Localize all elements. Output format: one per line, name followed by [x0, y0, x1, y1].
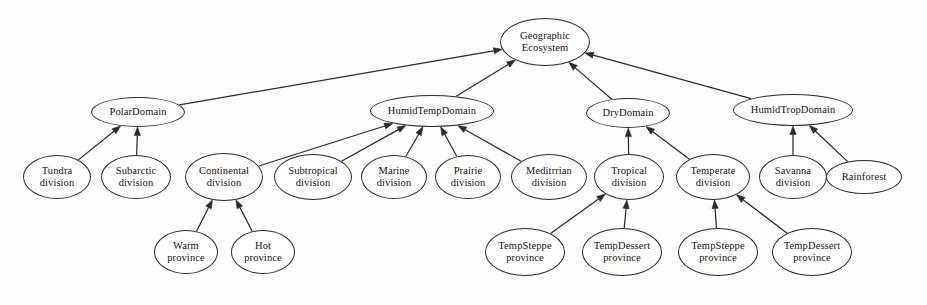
node-tempdessert2[interactable]: TempDessert province — [772, 228, 852, 276]
node-tempsteppe1[interactable]: TempSteppe province — [485, 228, 565, 276]
node-humidtrop[interactable]: HumidTropDomain — [733, 94, 853, 126]
node-label: Subtropical division — [285, 165, 341, 189]
node-label: HumidTempDomain — [385, 105, 479, 117]
node-label: Warm province — [164, 240, 208, 264]
node-label: TempSteppe province — [688, 240, 747, 264]
node-temperate[interactable]: Temperate division — [676, 154, 750, 200]
node-root[interactable]: Geographic Ecosystem — [500, 18, 590, 66]
node-label: Geographic Ecosystem — [517, 30, 573, 54]
node-label: Savanna division — [772, 165, 814, 189]
node-meditrrian[interactable]: Meditrrian division — [511, 154, 587, 200]
node-label: Marine division — [374, 165, 415, 189]
node-label: Tropical division — [608, 165, 650, 189]
node-hot[interactable]: Hot province — [231, 230, 295, 274]
node-label: Temperate division — [687, 165, 738, 189]
node-tempsteppe2[interactable]: TempSteppe province — [678, 228, 758, 276]
node-warm[interactable]: Warm province — [154, 230, 218, 274]
node-label: Tundra division — [37, 165, 78, 189]
node-tropical[interactable]: Tropical division — [594, 154, 664, 200]
node-label: Continental division — [196, 165, 252, 189]
ecosystem-hierarchy-diagram: Geographic EcosystemPolarDomainHumidTemp… — [0, 0, 927, 305]
node-humidtemp[interactable]: HumidTempDomain — [370, 95, 494, 127]
node-layer: Geographic EcosystemPolarDomainHumidTemp… — [0, 0, 927, 305]
node-label: Subarctic division — [113, 165, 160, 189]
node-label: Meditrrian division — [523, 165, 575, 189]
node-label: PolarDomain — [106, 106, 169, 118]
node-dry[interactable]: DryDomain — [586, 98, 670, 128]
node-label: TempSteppe province — [495, 240, 554, 264]
node-label: DryDomain — [599, 107, 656, 119]
node-tempdessert1[interactable]: TempDessert province — [582, 228, 662, 276]
node-polar[interactable]: PolarDomain — [91, 97, 185, 127]
node-subtropical[interactable]: Subtropical division — [274, 154, 352, 200]
node-rainforest[interactable]: Rainforest — [826, 160, 902, 194]
node-label: Hot province — [241, 240, 285, 264]
node-marine[interactable]: Marine division — [361, 155, 427, 199]
node-savanna[interactable]: Savanna division — [759, 155, 827, 199]
node-label: HumidTropDomain — [748, 104, 839, 116]
node-tundra[interactable]: Tundra division — [23, 155, 91, 199]
node-label: Rainforest — [839, 171, 890, 183]
node-label: TempDessert province — [781, 240, 843, 264]
node-subarctic[interactable]: Subarctic division — [101, 155, 171, 199]
node-prairie[interactable]: Prairie division — [435, 155, 501, 199]
node-label: TempDessert province — [591, 240, 653, 264]
node-continental[interactable]: Continental division — [185, 153, 263, 201]
node-label: Prairie division — [448, 165, 489, 189]
